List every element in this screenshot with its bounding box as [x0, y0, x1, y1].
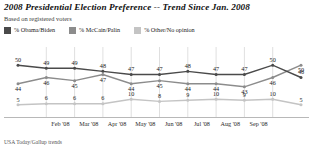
source-note: USA Today/Gallup trends: [4, 139, 62, 145]
chart-container: 2008 Presidential Election Preference --…: [0, 0, 313, 151]
page-title: 2008 Presidential Election Preference --…: [4, 2, 250, 12]
x-axis-tick-label: Mar '08: [79, 120, 98, 127]
chart-subtitle: Based on registered voters: [4, 15, 72, 22]
data-point: [73, 102, 76, 105]
legend-item-other: % Other/No opinion: [134, 27, 195, 34]
data-label: 6: [45, 94, 48, 101]
x-axis-tick-label: Aug '08: [220, 120, 240, 127]
data-point: [243, 73, 246, 76]
data-label: 48: [185, 62, 191, 69]
x-axis: Feb '08Mar '08Apr '08May '08Jun '08Jul '…: [4, 120, 309, 132]
legend-label-mccain: % McCain/Palin: [79, 27, 120, 33]
plot-area: 5666108910910544464547444544444346505049…: [4, 45, 309, 120]
data-point: [158, 100, 161, 103]
data-point: [243, 99, 246, 102]
data-point: [73, 67, 76, 70]
data-label: 44: [185, 85, 191, 92]
data-label: 46: [298, 68, 304, 75]
legend-label-obama: % Obama/Biden: [14, 27, 55, 33]
data-label: 47: [213, 65, 219, 72]
x-axis-tick-label: May '08: [135, 120, 155, 127]
legend-swatch-other: [134, 27, 141, 34]
data-label: 47: [100, 76, 106, 83]
data-point: [271, 64, 274, 67]
data-label: 47: [156, 65, 162, 72]
line-chart-svg: 5666108910910544464547444544444346505049…: [4, 45, 309, 120]
data-point: [300, 103, 303, 106]
data-label: 5: [299, 96, 302, 103]
data-label: 45: [156, 82, 162, 89]
data-label: 49: [72, 59, 78, 66]
data-label: 8: [158, 92, 161, 99]
data-point: [130, 98, 133, 101]
data-label: 6: [73, 94, 76, 101]
data-point: [17, 64, 20, 67]
data-point: [186, 99, 189, 102]
legend-item-obama: % Obama/Biden: [4, 27, 55, 34]
data-point: [186, 70, 189, 73]
data-label: 5: [16, 96, 19, 103]
data-label: 6: [101, 94, 104, 101]
data-point: [45, 67, 48, 70]
data-label: 45: [72, 82, 78, 89]
data-label: 50: [270, 56, 276, 63]
data-label: 44: [213, 85, 219, 92]
data-point: [215, 98, 218, 101]
x-axis-tick-label: Sep '08: [249, 120, 267, 127]
data-label: 43: [241, 88, 247, 95]
data-label: 48: [100, 62, 106, 69]
data-label: 49: [43, 59, 49, 66]
legend-item-mccain: % McCain/Palin: [69, 27, 120, 34]
legend-label-other: % Other/No opinion: [144, 27, 195, 33]
legend-swatch-mccain: [69, 27, 76, 34]
data-label: 10: [270, 90, 276, 97]
x-axis-tick-label: Jun '08: [165, 120, 182, 127]
chart-legend: % Obama/Biden % McCain/Palin % Other/No …: [4, 27, 209, 34]
data-label: 50: [15, 56, 21, 63]
data-label: 44: [128, 85, 134, 92]
data-point: [45, 102, 48, 105]
data-point: [101, 70, 104, 73]
data-point: [271, 98, 274, 101]
data-point: [158, 73, 161, 76]
data-point: [101, 102, 104, 105]
data-label: 47: [241, 65, 247, 72]
x-axis-tick-label: Apr '08: [108, 120, 126, 127]
data-label: 47: [128, 65, 134, 72]
x-axis-tick-label: Feb '08: [51, 120, 69, 127]
data-point: [300, 76, 303, 79]
legend-swatch-obama: [4, 27, 11, 34]
data-label: 44: [15, 85, 21, 92]
data-point: [17, 103, 20, 106]
data-label: 9: [186, 91, 189, 98]
data-point: [130, 73, 133, 76]
data-label: 46: [270, 79, 276, 86]
data-label: 46: [43, 79, 49, 86]
x-axis-tick-label: Jul '08: [194, 120, 210, 127]
data-point: [215, 73, 218, 76]
